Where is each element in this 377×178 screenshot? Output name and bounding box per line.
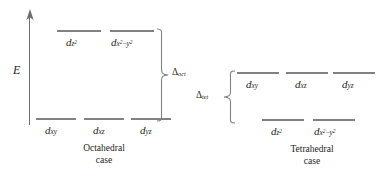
delta-subscript: oct <box>178 70 186 77</box>
orbital-sup2: 2 <box>130 39 133 45</box>
octahedral-upper-level-line <box>110 30 154 32</box>
tetrahedral-lower-level-line <box>262 119 304 121</box>
energy-axis-arrowhead <box>25 9 35 21</box>
orbital-sup2: 2 <box>333 128 336 134</box>
tetrahedral-caption-line2: case <box>266 156 358 168</box>
octahedral-caption: Octahedral case <box>58 143 150 166</box>
orbital-sub: xz <box>301 82 307 90</box>
orbital-sub: xy <box>51 128 57 136</box>
energy-axis-label: E <box>13 63 20 78</box>
crystal-field-splitting-diagram: E dz2 dx2−y2 dxy dxz dyz <box>0 0 377 178</box>
tetrahedral-caption-line1: Tetrahedral <box>266 144 358 156</box>
tetrahedral-splitting-label: Δtet <box>196 91 208 101</box>
energy-axis-line <box>29 17 30 125</box>
orbital-sup: 2 <box>74 39 77 45</box>
tetrahedral-upper-level-line <box>286 72 328 74</box>
orbital-label-dx2-y2: dx2−y2 <box>314 126 335 137</box>
octahedral-lower-level-line <box>84 118 124 120</box>
orbital-sub: xy <box>252 82 258 90</box>
tetrahedral-upper-level-line <box>333 72 375 74</box>
orbital-label-dxy: dxy <box>246 79 258 90</box>
orbital-sub: yz <box>146 128 152 136</box>
octahedral-splitting-brace <box>156 28 170 122</box>
orbital-label-dyz: dyz <box>342 79 354 90</box>
orbital-sub: xz <box>99 128 105 136</box>
orbital-label-dyz: dyz <box>140 125 152 136</box>
octahedral-lower-level-line <box>36 118 76 120</box>
tetrahedral-upper-level-line <box>237 72 279 74</box>
orbital-label-dxy: dxy <box>45 125 57 136</box>
tetrahedral-lower-level-line <box>313 119 355 121</box>
octahedral-splitting-label: Δoct <box>172 68 186 78</box>
orbital-label-dxz: dxz <box>93 125 105 136</box>
octahedral-caption-line2: case <box>58 155 150 167</box>
octahedral-caption-line1: Octahedral <box>58 143 150 155</box>
octahedral-upper-level-line <box>57 30 101 32</box>
orbital-label-dx2-y2: dx2−y2 <box>111 37 132 48</box>
orbital-sub: yz <box>348 82 354 90</box>
tetrahedral-splitting-brace <box>222 70 236 125</box>
delta-subscript: tet <box>202 93 208 100</box>
orbital-sup: 2 <box>279 128 282 134</box>
orbital-label-dz2: dz2 <box>66 37 77 48</box>
orbital-label-dxz: dxz <box>295 79 307 90</box>
orbital-label-dz2: dz2 <box>271 126 282 137</box>
tetrahedral-caption: Tetrahedral case <box>266 144 358 167</box>
